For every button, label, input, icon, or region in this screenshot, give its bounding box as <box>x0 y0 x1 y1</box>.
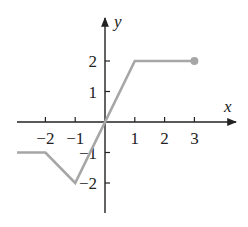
curve <box>17 57 198 183</box>
x-tick-label: −2 <box>36 129 54 148</box>
x-tick-label: 3 <box>190 129 199 148</box>
y-tick-label: 2 <box>89 52 98 71</box>
x-axis-label: x <box>223 97 232 116</box>
x-tick-label: 1 <box>131 129 140 148</box>
y-tick-label: 1 <box>89 83 98 102</box>
endpoint-dot <box>190 57 198 65</box>
y-axis-label: y <box>112 12 122 31</box>
function-graph: −2−1123 −2−112 x y <box>0 0 248 227</box>
y-tick-label: −2 <box>79 174 97 193</box>
x-tick-label: 2 <box>160 129 169 148</box>
